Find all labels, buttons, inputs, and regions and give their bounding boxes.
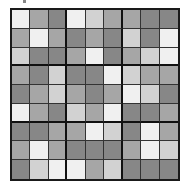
grid-cell[interactable] <box>123 123 141 142</box>
grid-cell[interactable] <box>86 85 104 104</box>
grid-cell[interactable] <box>123 141 141 160</box>
grid-cell[interactable] <box>67 123 85 142</box>
grid-cell[interactable] <box>67 85 85 104</box>
grid-cell[interactable] <box>104 66 122 85</box>
grid-cell[interactable] <box>67 160 85 179</box>
grid-cell[interactable] <box>30 66 48 85</box>
grid-cell[interactable] <box>49 160 67 179</box>
grid-cell[interactable] <box>30 104 48 123</box>
grid-cell[interactable] <box>123 48 141 67</box>
grid-cell[interactable] <box>12 85 30 104</box>
grid-cell[interactable] <box>160 123 178 142</box>
grid-cell[interactable] <box>104 160 122 179</box>
shade-grid-board <box>10 8 180 181</box>
grid-cell[interactable] <box>104 141 122 160</box>
grid-cell[interactable] <box>141 123 159 142</box>
grid-cell[interactable] <box>49 66 67 85</box>
grid-cell[interactable] <box>86 10 104 29</box>
grid-cell[interactable] <box>67 141 85 160</box>
grid-cell[interactable] <box>49 141 67 160</box>
grid-cell[interactable] <box>67 66 85 85</box>
grid-cell[interactable] <box>86 160 104 179</box>
grid-cell[interactable] <box>86 66 104 85</box>
grid-cell[interactable] <box>67 10 85 29</box>
grid-cell[interactable] <box>160 104 178 123</box>
grid-cell[interactable] <box>30 29 48 48</box>
grid-cell[interactable] <box>104 104 122 123</box>
grid-cell[interactable] <box>160 160 178 179</box>
grid-cell[interactable] <box>67 104 85 123</box>
grid-cell[interactable] <box>123 85 141 104</box>
grid-cell[interactable] <box>123 10 141 29</box>
grid-cell[interactable] <box>30 123 48 142</box>
grid-cell[interactable] <box>49 85 67 104</box>
grid-cell[interactable] <box>141 141 159 160</box>
grid-cell[interactable] <box>30 141 48 160</box>
corner-mark <box>23 0 26 3</box>
grid-cell[interactable] <box>123 104 141 123</box>
grid-cell[interactable] <box>104 10 122 29</box>
grid-cell[interactable] <box>49 104 67 123</box>
grid-cell[interactable] <box>86 48 104 67</box>
grid-cell[interactable] <box>30 85 48 104</box>
grid-cell[interactable] <box>141 10 159 29</box>
grid-cell[interactable] <box>160 29 178 48</box>
grid-cell[interactable] <box>160 48 178 67</box>
grid-cell[interactable] <box>12 123 30 142</box>
grid-cell[interactable] <box>160 10 178 29</box>
grid-cell[interactable] <box>104 48 122 67</box>
grid-cell[interactable] <box>12 10 30 29</box>
grid-cell[interactable] <box>12 29 30 48</box>
grid-cell[interactable] <box>86 123 104 142</box>
grid-cell[interactable] <box>49 123 67 142</box>
grid-cell[interactable] <box>123 29 141 48</box>
grid-cell[interactable] <box>12 104 30 123</box>
grid-cell[interactable] <box>104 29 122 48</box>
grid-cell[interactable] <box>30 10 48 29</box>
grid-cell[interactable] <box>30 48 48 67</box>
grid-cell[interactable] <box>49 10 67 29</box>
grid-cell[interactable] <box>49 29 67 48</box>
grid-cell[interactable] <box>160 66 178 85</box>
grid-cell[interactable] <box>123 160 141 179</box>
grid-cell[interactable] <box>86 104 104 123</box>
grid-cell[interactable] <box>30 160 48 179</box>
grid-cell[interactable] <box>141 29 159 48</box>
grid-cell[interactable] <box>12 66 30 85</box>
grid-cell[interactable] <box>123 66 141 85</box>
grid-cell[interactable] <box>67 48 85 67</box>
grid-cell[interactable] <box>12 141 30 160</box>
grid-cell[interactable] <box>160 141 178 160</box>
grid-cell[interactable] <box>86 29 104 48</box>
grid-cell[interactable] <box>141 104 159 123</box>
grid-cell[interactable] <box>49 48 67 67</box>
grid-cell[interactable] <box>86 141 104 160</box>
grid-cell[interactable] <box>141 48 159 67</box>
grid-cell[interactable] <box>104 123 122 142</box>
grid-cell[interactable] <box>141 85 159 104</box>
grid-cell[interactable] <box>67 29 85 48</box>
grid-cell[interactable] <box>141 160 159 179</box>
grid-cell[interactable] <box>12 48 30 67</box>
grid-cell[interactable] <box>141 66 159 85</box>
grid-cell[interactable] <box>104 85 122 104</box>
grid-cell[interactable] <box>160 85 178 104</box>
grid-cell[interactable] <box>12 160 30 179</box>
